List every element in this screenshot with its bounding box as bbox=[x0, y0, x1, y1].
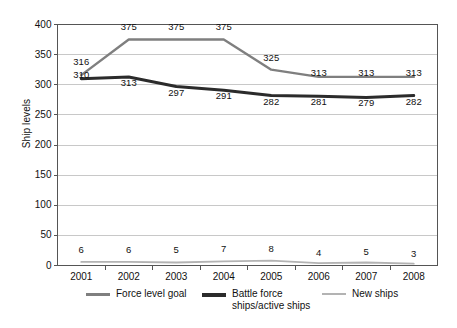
data-label: 281 bbox=[302, 96, 336, 107]
gridlines bbox=[58, 25, 438, 266]
data-label: 316 bbox=[64, 56, 98, 67]
data-label: 325 bbox=[254, 52, 288, 63]
data-label: 282 bbox=[397, 96, 431, 107]
data-label: 8 bbox=[254, 243, 288, 254]
y-tick-label: 300 bbox=[18, 79, 52, 90]
data-label: 313 bbox=[397, 67, 431, 78]
data-label: 313 bbox=[302, 67, 336, 78]
data-label: 313 bbox=[112, 77, 146, 88]
legend-item-battle-force: Battle force ships/active ships bbox=[202, 288, 310, 312]
data-label: 291 bbox=[207, 90, 241, 101]
legend-swatch-force-level-goal bbox=[86, 293, 110, 296]
data-label: 375 bbox=[207, 21, 241, 32]
x-tick-label: 2007 bbox=[342, 271, 390, 282]
x-tick-label: 2005 bbox=[247, 271, 295, 282]
y-tick-label: 350 bbox=[18, 49, 52, 60]
data-label: 297 bbox=[159, 87, 193, 98]
y-tick-label: 0 bbox=[18, 260, 52, 271]
legend-label-battle-force: Battle force ships/active ships bbox=[232, 288, 310, 312]
legend-swatch-new-ships bbox=[322, 293, 346, 295]
legend-item-force-level-goal: Force level goal bbox=[86, 288, 187, 300]
x-tick-label: 2008 bbox=[390, 271, 438, 282]
y-tick-label: 100 bbox=[18, 199, 52, 210]
legend-label-new-ships: New ships bbox=[352, 288, 398, 300]
y-tick-label: 150 bbox=[18, 169, 52, 180]
axes bbox=[54, 25, 438, 270]
legend-item-new-ships: New ships bbox=[322, 288, 398, 300]
data-label: 5 bbox=[159, 244, 193, 255]
y-tick-label: 250 bbox=[18, 109, 52, 120]
x-tick-label: 2002 bbox=[105, 271, 153, 282]
y-tick-label: 50 bbox=[18, 229, 52, 240]
data-label: 6 bbox=[112, 244, 146, 255]
y-tick-label: 200 bbox=[18, 139, 52, 150]
legend-label-force-level-goal: Force level goal bbox=[116, 288, 187, 300]
ship-levels-line-chart: Ship levels 050100150200250300350400 200… bbox=[0, 0, 457, 328]
x-tick-label: 2003 bbox=[152, 271, 200, 282]
x-tick-label: 2006 bbox=[295, 271, 343, 282]
y-tick-label: 400 bbox=[18, 19, 52, 30]
data-label: 279 bbox=[349, 97, 383, 108]
data-label: 6 bbox=[64, 244, 98, 255]
data-label: 5 bbox=[349, 246, 383, 257]
data-label: 313 bbox=[349, 67, 383, 78]
data-label: 310 bbox=[64, 69, 98, 80]
data-label: 375 bbox=[159, 21, 193, 32]
data-label: 282 bbox=[254, 96, 288, 107]
legend-swatch-battle-force bbox=[202, 293, 226, 297]
data-label: 3 bbox=[397, 248, 431, 259]
x-tick-label: 2004 bbox=[200, 271, 248, 282]
data-label: 375 bbox=[112, 21, 146, 32]
chart-legend: Force level goal Battle force ships/acti… bbox=[0, 288, 457, 328]
data-label: 7 bbox=[207, 243, 241, 254]
x-tick-label: 2001 bbox=[57, 271, 105, 282]
data-label: 4 bbox=[302, 247, 336, 258]
